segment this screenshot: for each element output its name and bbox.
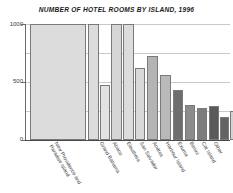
bar [123, 24, 134, 140]
y-tick-label-0: 0 [1, 136, 23, 142]
bar [209, 106, 219, 140]
bar-chart: NUMBER OF HOTEL ROOMS BY ISLAND, 1996 10… [0, 0, 233, 193]
bar [185, 105, 195, 140]
y-tick-label-1000: 1000 [1, 21, 23, 27]
x-axis-label: Abaco [111, 141, 123, 157]
bar [197, 108, 207, 140]
x-axis-label: New Providence andParadise Island [48, 141, 82, 188]
x-axis-label: Other [212, 141, 223, 155]
bar [100, 85, 110, 140]
x-axis-label-line: Andros [151, 141, 164, 158]
x-axis-labels: New Providence andParadise IslandGrand B… [25, 141, 233, 193]
bar [30, 24, 86, 140]
bar [147, 56, 158, 140]
bar [88, 24, 99, 140]
chart-title: NUMBER OF HOTEL ROOMS BY ISLAND, 1996 [0, 6, 233, 13]
bar [111, 24, 122, 140]
bar [220, 117, 229, 140]
bar [230, 111, 233, 140]
bar-series [26, 24, 230, 140]
plot-area [25, 24, 230, 141]
x-axis-label: Andros [151, 141, 164, 158]
x-axis-label-line: Abaco [111, 141, 123, 157]
bar [160, 75, 171, 140]
y-tick-label-500: 500 [1, 78, 23, 84]
bar [135, 68, 145, 140]
bar [173, 90, 183, 140]
x-axis-label-line: Other [212, 141, 223, 155]
